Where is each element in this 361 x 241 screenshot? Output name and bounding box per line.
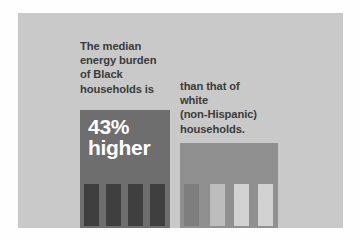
person-icon [210, 184, 225, 226]
left-caption-line-1: The median [80, 39, 190, 53]
infographic-canvas: The median energy burden of Black househ… [0, 0, 361, 241]
right-caption-line-3: (non-Hispanic) [180, 107, 292, 121]
stat-callout: 43% higher [88, 116, 150, 158]
person-icon [84, 184, 99, 226]
bar-black-households: 43% higher [80, 110, 170, 228]
left-caption-line-4: households is [80, 82, 190, 96]
right-caption-line-2: white [180, 93, 292, 107]
person-icon [150, 184, 165, 226]
right-caption: than that of white (non-Hispanic) househ… [180, 79, 292, 136]
right-caption-line-1: than that of [180, 79, 292, 93]
left-caption-line-3: of Black [80, 67, 190, 81]
left-caption-line-2: energy burden [80, 53, 190, 67]
left-caption: The median energy burden of Black househ… [80, 39, 190, 96]
stat-qualifier: higher [88, 137, 150, 158]
person-icon [234, 184, 249, 226]
bar-white-households [180, 143, 278, 228]
person-icon [128, 184, 143, 226]
stat-value: 43% [88, 116, 150, 137]
infographic-panel: The median energy burden of Black househ… [18, 13, 343, 228]
right-caption-line-4: households. [180, 122, 292, 136]
person-icon [106, 184, 121, 226]
person-icon [258, 184, 273, 226]
figure-row-white [180, 182, 278, 228]
figure-row-black [80, 182, 170, 228]
person-icon [184, 184, 199, 226]
